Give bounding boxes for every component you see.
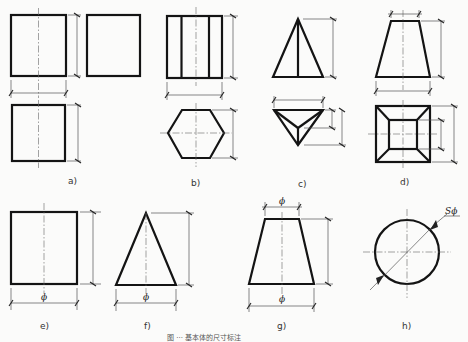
panel-a: a) [9, 8, 140, 186]
prism-front-view [167, 16, 222, 78]
panel-label-d: d) [400, 177, 409, 187]
panel-f: ϕ f) [114, 211, 194, 331]
panel-label-h: h) [402, 321, 411, 331]
sphere-diameter-symbol: Sϕ [445, 206, 457, 216]
diameter-symbol: ϕ [41, 292, 47, 302]
cylinder-view [11, 212, 77, 284]
panel-label-g: g) [277, 321, 286, 331]
panel-label-f: f) [144, 321, 151, 331]
panel-d: d) [368, 10, 458, 187]
panel-label-a: a) [68, 176, 77, 186]
diameter-symbol: ϕ [143, 292, 149, 302]
cone-view [116, 213, 176, 285]
panel-g: ϕ ϕ g) [247, 196, 333, 331]
panel-e: ϕ e) [9, 203, 101, 331]
panel-label-e: e) [40, 321, 49, 331]
engineering-drawing-figure: a) b) [0, 0, 468, 342]
panel-label-c: c) [298, 179, 306, 189]
top-diameter-symbol: ϕ [279, 196, 285, 206]
bottom-diameter-symbol: ϕ [279, 294, 285, 304]
panel-label-b: b) [191, 178, 200, 188]
panel-c: c) [272, 17, 346, 189]
panel-b: b) [160, 7, 238, 188]
drawing-canvas: a) b) [0, 0, 468, 342]
side-view-square [87, 15, 140, 76]
panel-h: Sϕ h) [363, 206, 460, 331]
cone-frustum-view [249, 219, 314, 284]
figure-caption: 图 ··· 基本体的尺寸标注 [167, 333, 241, 342]
